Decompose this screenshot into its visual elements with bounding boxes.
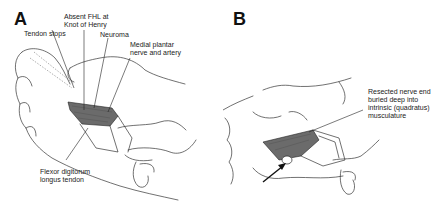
- leader-medial-plantar: [108, 58, 130, 112]
- label-neuroma: Neuroma: [100, 31, 129, 39]
- panel-b: B Resected nerve end buried deep into in…: [223, 0, 446, 217]
- panel-letter-b: B: [233, 10, 246, 28]
- label-resected-nerve: Resected nerve end buried deep into intr…: [368, 88, 431, 120]
- leader-resected-nerve: [309, 110, 363, 132]
- label-medial-plantar: Medial plantar nerve and artery: [130, 41, 181, 57]
- leader-fdl-tendon: [66, 128, 88, 160]
- leader-neuroma: [94, 38, 108, 108]
- leader-tendon-stops: [52, 30, 74, 88]
- label-fdl-tendon: Flexor digitorum longus tendon: [40, 168, 90, 184]
- panel-a: A Tendon stops Absent FHL at Knot of Hen…: [0, 0, 223, 217]
- label-absent-fhl: Absent FHL at Knot of Henry: [64, 13, 109, 29]
- label-tendon-stops: Tendon stops: [24, 30, 66, 38]
- panel-letter-a: A: [14, 10, 27, 28]
- arrow-icon: [263, 166, 283, 182]
